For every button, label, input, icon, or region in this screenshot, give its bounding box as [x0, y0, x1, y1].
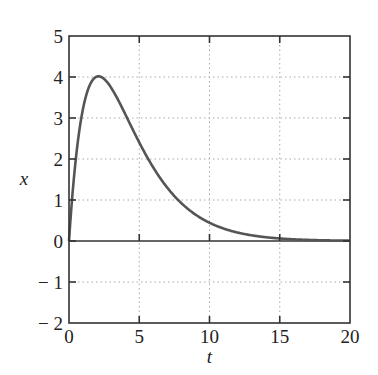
y-tick-label: − 2 [38, 313, 63, 334]
x-tick-label: 0 [64, 326, 74, 347]
y-axis-label: x [19, 168, 29, 189]
grid-lines [69, 36, 350, 323]
y-tick-label: 2 [54, 149, 64, 170]
y-tick-label: 5 [54, 26, 64, 47]
y-tick-label: 1 [54, 190, 64, 211]
y-tick-labels: − 2− 1012345 [38, 26, 63, 334]
x-tick-labels: 05101520 [64, 326, 359, 347]
x-tick-label: 20 [341, 326, 360, 347]
x-tick-label: 15 [270, 326, 289, 347]
y-tick-label: 4 [54, 67, 64, 88]
y-tick-label: 3 [54, 108, 64, 129]
x-tick-label: 5 [135, 326, 145, 347]
x-axis-label: t [207, 346, 213, 367]
y-tick-label: 0 [54, 231, 64, 252]
x-tick-label: 10 [200, 326, 219, 347]
y-tick-label: − 1 [38, 272, 63, 293]
line-chart: 05101520 − 2− 1012345 t x [0, 0, 378, 375]
